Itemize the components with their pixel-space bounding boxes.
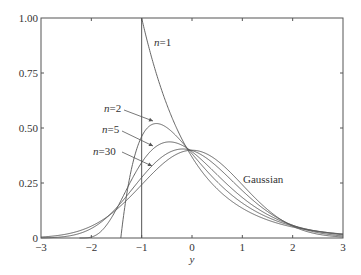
plot-border [41,18,343,238]
x-tick-label: 3 [340,241,346,253]
label-gaussian: Gaussian [243,173,284,185]
x-axis-label: y [189,253,195,265]
y-tick-label: 1.00 [19,12,39,24]
chart: −3−2−1012300.250.500.751.00 n=1n=2n=5n=3… [0,0,361,275]
y-tick-label: 0.75 [19,67,39,79]
x-tick-label: 1 [240,241,246,253]
label-n-1: n=1 [154,36,171,48]
x-tick-label: −2 [85,241,97,253]
curve-n-1 [142,18,343,234]
curves [41,18,343,238]
arrow-label-n-5 [122,131,153,146]
curve-n-30 [41,149,343,238]
x-tick-label: 2 [290,241,296,253]
label-n-2: n=2 [104,102,121,114]
x-tick-label: 0 [189,241,195,253]
arrow-label-n-2 [124,110,153,121]
curve-gaussian [41,150,343,237]
y-tick-label: 0 [33,232,39,244]
label-n-30: n=30 [93,145,116,157]
annotations: n=1n=2n=5n=30Gaussian [93,36,284,185]
axis-ticks: −3−2−1012300.250.500.751.00 [19,12,347,253]
plot-frame [41,18,343,238]
y-tick-label: 0.25 [19,177,39,189]
x-tick-label: −1 [136,241,148,253]
label-n-5: n=5 [102,123,120,135]
y-tick-label: 0.50 [19,122,39,134]
